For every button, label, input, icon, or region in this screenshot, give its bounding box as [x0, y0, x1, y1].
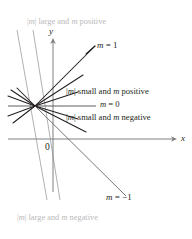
line-steep-up-left — [17, 30, 47, 200]
line-left-steep-positive — [17, 88, 35, 106]
origin-label: 0 — [45, 143, 50, 153]
annotation-slope-one: m = 1 — [97, 41, 118, 50]
annotation-small-negative: |m| small and m negative — [66, 113, 151, 122]
line-steep-up-right — [33, 30, 60, 200]
leader-m-equals-one — [86, 46, 95, 54]
annotation-slope-negative-one: m = −1 — [106, 193, 132, 202]
annotation-large-positive: |m| large and m positive — [27, 18, 106, 26]
slope-family-figure: |m| large and m positive y m = 1 |m| sma… — [0, 0, 192, 239]
annotation-large-negative: |m| large and m negative — [17, 214, 98, 222]
line-m-equals-one — [35, 46, 95, 106]
annotation-small-positive: |m| small and m positive — [66, 87, 149, 96]
y-axis-label: y — [49, 27, 53, 36]
x-axis-label: x — [181, 134, 185, 143]
annotation-slope-zero: m = 0 — [100, 100, 120, 109]
